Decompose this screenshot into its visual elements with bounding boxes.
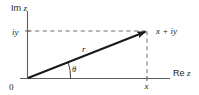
angle-label: θ [72, 64, 76, 74]
real-axis-variable: z [186, 68, 191, 78]
real-tick-label: x [144, 81, 149, 91]
imaginary-tick-label: iy [12, 27, 19, 37]
modulus-label: r [82, 44, 86, 54]
imaginary-axis-variable: z [23, 3, 28, 13]
origin-label: 0 [9, 82, 14, 92]
point-label: x + iy [155, 26, 177, 36]
modulus-vector-r [28, 32, 146, 78]
real-axis-label: Rez [173, 68, 191, 78]
imaginary-axis-label: Imz [11, 3, 28, 13]
theta-angle-arc [68, 63, 70, 79]
imaginary-axis-label-text: Im [11, 3, 21, 13]
real-axis-label-text: Re [173, 68, 185, 78]
argand-diagram-figure: Imz Rez iy x 0 x + iy r θ [0, 0, 199, 95]
argand-diagram-canvas: Imz Rez iy x 0 x + iy r θ [0, 0, 199, 95]
